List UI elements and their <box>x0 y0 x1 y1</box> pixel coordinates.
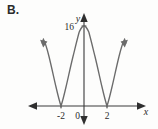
origin-label: 0 <box>75 111 80 121</box>
y-axis-group <box>80 13 87 125</box>
graph-plot: x y -2 2 0 16 <box>0 0 158 129</box>
y-axis-label: y <box>75 13 81 24</box>
figure-panel: B. x y -2 2 0 <box>0 0 158 129</box>
arrow-up-icon <box>80 13 87 22</box>
arrow-down-icon <box>80 116 87 125</box>
arrow-left-icon <box>28 102 37 110</box>
x-axis-label: x <box>143 106 149 117</box>
x-tick-label-neg2: -2 <box>57 111 65 121</box>
y-tick-label-16: 16 <box>65 22 75 32</box>
x-tick-label-pos2: 2 <box>105 111 110 121</box>
x-axis-group <box>28 102 146 110</box>
